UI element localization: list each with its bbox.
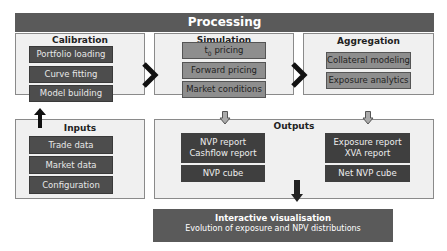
exposure-analytics-box: Exposure analytics [326, 72, 411, 89]
trade-data-box: Trade data [29, 136, 113, 154]
chevron-right-icon [141, 62, 159, 88]
aggregation-title: Aggregation [304, 36, 433, 46]
inputs-panel: Inputs Trade data Market data Configurat… [15, 119, 145, 199]
arrow-up-icon [34, 108, 46, 128]
net-nvp-cube-box: Net NVP cube [325, 165, 410, 182]
forward-pricing-box: Forward pricing [182, 62, 266, 79]
t0-rest: pricing [212, 45, 244, 55]
nvp-cube-box: NVP cube [181, 165, 265, 182]
cashflow-report-label: Cashflow report [181, 148, 265, 159]
market-conditions-box: Market conditions [182, 81, 266, 98]
aggregation-panel: Aggregation Collateral modeling Exposure… [303, 33, 434, 95]
arrow-down-icon [362, 111, 374, 125]
arrow-down-icon [219, 111, 231, 125]
chevron-right-icon [290, 62, 308, 88]
portfolio-loading-box: Portfolio loading [29, 46, 113, 63]
model-building-box: Model building [29, 85, 113, 102]
nvp-cashflow-report-box: NVP report Cashflow report [181, 133, 265, 163]
nvp-report-label: NVP report [181, 137, 265, 148]
arrow-down-icon [291, 180, 303, 202]
visualisation-subtitle: Evolution of exposure and NPV distributi… [153, 224, 393, 233]
market-data-box: Market data [29, 156, 113, 174]
collateral-modeling-box: Collateral modeling [326, 52, 411, 69]
configuration-box: Configuration [29, 176, 113, 194]
xva-report-label: XVA report [325, 148, 410, 159]
exposure-xva-report-box: Exposure report XVA report [325, 133, 410, 163]
calibration-panel: Calibration Portfolio loading Curve fitt… [15, 33, 145, 95]
interactive-visualisation-box: Interactive visualisation Evolution of e… [153, 209, 393, 242]
t0-pricing-box: t0 pricing [182, 42, 266, 59]
processing-header: Processing [15, 13, 434, 32]
exposure-report-label: Exposure report [325, 137, 410, 148]
outputs-title: Outputs [155, 121, 433, 131]
curve-fitting-box: Curve fitting [29, 66, 113, 83]
simulation-panel: Simulation t0 pricing Forward pricing Ma… [154, 33, 294, 95]
calibration-title: Calibration [16, 35, 144, 45]
visualisation-title: Interactive visualisation [153, 213, 393, 223]
